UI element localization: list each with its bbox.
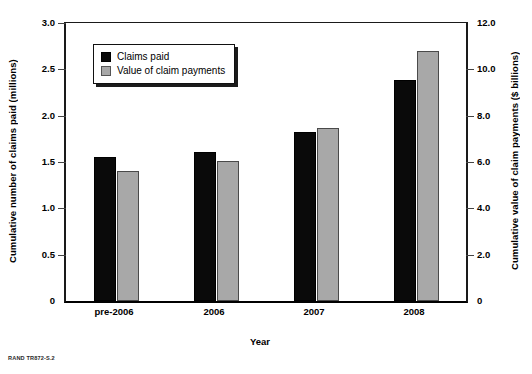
y-axis-left-tick-label: 0.5: [42, 250, 55, 260]
legend-item-label: Claims paid: [117, 51, 169, 63]
y-axis-right-tick-label: 8.0: [477, 111, 490, 121]
x-axis-tick-label: 2007: [303, 306, 324, 317]
tick-mark: [466, 162, 474, 163]
bar-group: [294, 23, 339, 301]
y-axis-right-tick-label: 4.0: [477, 203, 490, 213]
y-axis-right-tick-label: 0: [477, 296, 482, 306]
y-axis-left-tick-label: 2.0: [42, 111, 55, 121]
y-axis-left-tick-label: 3.0: [42, 18, 55, 28]
legend-item: Claims paid: [101, 50, 225, 64]
bar: [217, 161, 239, 301]
tick-mark: [58, 116, 66, 117]
y-axis-right-title: Cumulative value of claim payments ($ bi…: [508, 22, 522, 300]
x-axis-title: Year: [60, 336, 460, 347]
source-caption: RAND TR872-S.2: [8, 355, 55, 361]
y-axis-right-tick-label: 12.0: [477, 18, 496, 28]
y-axis-left-tick-label: 2.5: [42, 64, 55, 74]
tick-mark: [58, 208, 66, 209]
bar-group: [394, 23, 439, 301]
chart-legend: Claims paid Value of claim payments: [93, 44, 235, 84]
tick-mark: [58, 23, 66, 24]
tick-mark: [466, 208, 474, 209]
bar: [417, 51, 439, 301]
black-square-swatch-icon: [101, 52, 111, 62]
y-axis-left-title: Cumulative number of claims paid (millio…: [6, 22, 20, 300]
tick-mark: [466, 69, 474, 70]
tick-mark: [58, 69, 66, 70]
tick-mark: [58, 162, 66, 163]
x-axis-tick-label: 2006: [203, 306, 224, 317]
legend-item: Value of claim payments: [101, 64, 225, 78]
tick-mark: [466, 255, 474, 256]
bar: [394, 80, 416, 301]
bar: [194, 152, 216, 301]
legend-item-label: Value of claim payments: [117, 65, 225, 77]
y-axis-left-tick-label: 0: [50, 296, 55, 306]
y-axis-left-tick-label: 1.0: [42, 203, 55, 213]
y-axis-right-tick-label: 6.0: [477, 157, 490, 167]
bar: [317, 128, 339, 301]
y-axis-right-tick-label: 10.0: [477, 64, 496, 74]
tick-mark: [466, 116, 474, 117]
y-axis-left-tick-label: 1.5: [42, 157, 55, 167]
figure-container: Cumulative number of claims paid (millio…: [0, 0, 532, 374]
bar: [117, 171, 139, 301]
x-axis-tick-label: 2008: [403, 306, 424, 317]
bar: [294, 132, 316, 301]
y-axis-right-tick-label: 2.0: [477, 250, 490, 260]
bar: [94, 157, 116, 301]
gray-square-swatch-icon: [101, 66, 111, 76]
tick-mark: [58, 255, 66, 256]
x-axis-tick-label: pre-2006: [94, 306, 133, 317]
